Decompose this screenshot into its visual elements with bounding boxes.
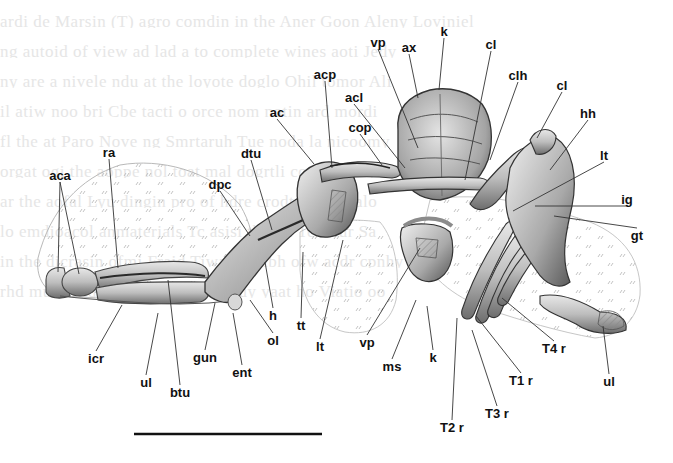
anatomical-figure: ardi de Marsin (T) agro comdin in the An…: [0, 0, 673, 463]
label-acl: acl: [345, 90, 363, 105]
label-ax: ax: [402, 40, 416, 55]
label-dtu: dtu: [241, 146, 261, 161]
leader-line-ul-left: [146, 313, 158, 375]
label-vp-top: vp: [370, 35, 385, 50]
label-cl-top: cl: [486, 37, 497, 52]
label-ac: ac: [270, 105, 284, 120]
label-ent: ent: [232, 365, 252, 380]
leader-line-ac: [277, 119, 314, 164]
scapula-coracoid: [297, 162, 401, 237]
leader-line-t3r: [472, 330, 497, 406]
leader-line-gun: [205, 303, 215, 350]
label-ul-right: ul: [603, 374, 615, 389]
leader-line-k-top: [439, 38, 444, 90]
label-acp: acp: [314, 67, 336, 82]
label-ms: ms: [383, 359, 402, 374]
label-gun: gun: [193, 350, 217, 365]
leader-line-t1r: [476, 316, 521, 373]
leader-line-clh: [490, 82, 518, 160]
label-k-bottom: k: [429, 350, 436, 365]
label-cl-right: cl: [557, 78, 568, 93]
label-h: h: [269, 308, 277, 323]
leader-line-k-bottom: [427, 306, 433, 350]
illustration-canvas: [0, 0, 673, 463]
leader-line-dtu: [251, 160, 272, 230]
label-t2r: T2 r: [440, 420, 464, 435]
label-cop: cop: [348, 120, 371, 135]
leader-line-acp: [325, 81, 332, 168]
label-ul-left: ul: [140, 375, 152, 390]
label-icr: icr: [88, 351, 104, 366]
label-aca: aca: [49, 168, 71, 183]
leader-line-icr: [96, 305, 122, 351]
label-t4r: T4 r: [542, 341, 566, 356]
label-tt: tt: [297, 318, 306, 333]
leader-line-ax: [409, 54, 418, 98]
label-ig: ig: [621, 192, 633, 207]
label-lt-bottom: lt: [316, 339, 324, 354]
label-ra: ra: [103, 145, 115, 160]
leader-line-h: [265, 262, 273, 308]
label-vp-bottom: vp: [359, 335, 374, 350]
leader-line-t2r: [452, 318, 457, 420]
leader-line-ms: [392, 300, 416, 359]
label-t3r: T3 r: [485, 406, 509, 421]
leader-line-ent: [233, 313, 242, 365]
label-dpc: dpc: [208, 177, 231, 192]
label-ol: ol: [267, 333, 279, 348]
label-t1r: T1 r: [509, 373, 533, 388]
label-gt: gt: [631, 228, 643, 243]
label-hh: hh: [580, 106, 596, 121]
label-btu: btu: [170, 385, 190, 400]
label-clh: clh: [509, 68, 528, 83]
label-lt-right: lt: [600, 148, 608, 163]
leader-line-cop: [360, 134, 382, 165]
label-k-top: k: [440, 24, 447, 39]
